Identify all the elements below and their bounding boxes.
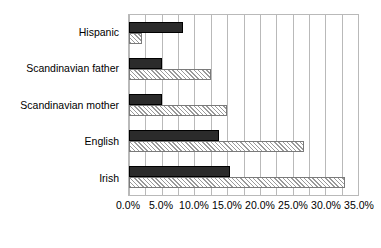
bar-series-1 — [129, 58, 162, 69]
bar-series-1 — [129, 130, 219, 141]
category-label: Irish — [0, 160, 124, 196]
x-tick-label: 5.0% — [149, 199, 173, 212]
category-label: English — [0, 123, 124, 159]
bars-layer — [129, 15, 358, 195]
bar-series-1 — [129, 94, 162, 105]
x-tick-label: 25.0% — [278, 199, 308, 212]
x-tick-label: 30.0% — [311, 199, 341, 212]
bar-series-2 — [129, 141, 304, 152]
bar-series-2 — [129, 33, 142, 44]
plot-area — [128, 14, 359, 196]
bar-series-1 — [129, 22, 183, 33]
bar-series-2 — [129, 177, 345, 188]
bar-group — [129, 15, 358, 51]
bar-series-2 — [129, 69, 211, 80]
bar-series-1 — [129, 166, 230, 177]
bar-chart: HispanicScandinavian fatherScandinavian … — [0, 0, 381, 248]
bar-group — [129, 123, 358, 159]
x-tick-label: 10.0% — [179, 199, 209, 212]
category-label: Scandinavian mother — [0, 87, 124, 123]
category-label: Hispanic — [0, 14, 124, 50]
gridline — [358, 15, 359, 195]
bar-group — [129, 51, 358, 87]
category-label: Scandinavian father — [0, 50, 124, 86]
category-axis: HispanicScandinavian fatherScandinavian … — [0, 14, 124, 196]
x-tick-label: 15.0% — [212, 199, 242, 212]
bar-group — [129, 87, 358, 123]
x-tick-label: 20.0% — [245, 199, 275, 212]
x-tick-label: 0.0% — [116, 199, 140, 212]
x-tick-label: 35.0% — [344, 199, 374, 212]
bar-series-2 — [129, 105, 227, 116]
value-axis: 0.0%5.0%10.0%15.0%20.0%25.0%30.0%35.0% — [128, 199, 359, 219]
bar-group — [129, 159, 358, 195]
